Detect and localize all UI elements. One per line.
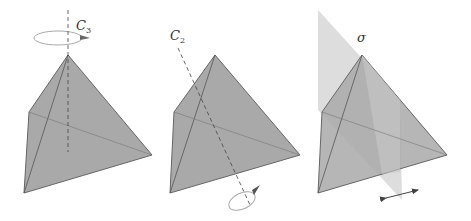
reflection-arrow-icon (386, 190, 418, 198)
sigma-label: σ (357, 30, 367, 45)
panel-c2: C2 (170, 28, 300, 214)
panel-sigma: σ (318, 10, 447, 200)
c3-label: C3 (76, 18, 91, 35)
rotation-arrow-icon (34, 31, 82, 45)
panel-c3: C3 (24, 10, 152, 193)
c2-label: C2 (170, 28, 185, 45)
symmetry-diagram: C3 C2 σ (0, 0, 471, 221)
tetrahedron (24, 55, 152, 193)
